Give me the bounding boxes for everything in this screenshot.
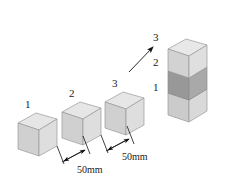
cube-one-shape	[18, 113, 57, 156]
dimension-gap-one-arrow-right	[62, 150, 85, 162]
dimension-gap-one-label: 50mm	[77, 165, 103, 175]
stack-label-one: 1	[153, 82, 159, 93]
cube-three-shape	[105, 92, 144, 135]
cube-three-label: 3	[112, 78, 118, 89]
cube-two-label: 2	[69, 88, 75, 99]
stack-label-three: 3	[153, 32, 159, 43]
dimension-gap-two-arrow-right	[106, 139, 129, 151]
cube-one-label: 1	[25, 99, 31, 110]
cube-two-shape	[62, 102, 101, 145]
stacking-arrow-shape	[129, 47, 153, 72]
dimension-gap-two-label: 50mm	[122, 152, 148, 162]
figure-canvas	[0, 0, 228, 189]
stack-label-two: 2	[153, 57, 159, 68]
technical-figure: 1 2 3 50mm 50mm 3 2 1	[0, 0, 228, 189]
